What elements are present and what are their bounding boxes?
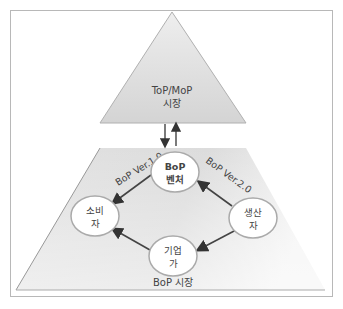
svg-text:기업: 기업 [164, 245, 182, 256]
svg-text:BoP: BoP [165, 161, 186, 172]
bop-market-diagram: ToP/MoP 시장 BoP Ver.1.0 BoP Ver.2.0 BoP 벤… [0, 0, 343, 309]
svg-text:소비: 소비 [86, 205, 104, 216]
node-consumer: 소비 자 [71, 196, 119, 236]
svg-text:자: 자 [91, 218, 100, 229]
top-market-label-1: ToP/MoP [151, 85, 193, 96]
top-market-label-2: 시장 [163, 98, 181, 109]
svg-text:벤처: 벤처 [166, 174, 184, 185]
bop-market-label: BoP 시장 [153, 277, 193, 288]
svg-text:가: 가 [169, 258, 178, 269]
svg-text:생산: 생산 [244, 207, 262, 218]
node-producer: 생산 자 [229, 198, 277, 238]
svg-text:자: 자 [249, 220, 258, 231]
node-entrepreneur: 기업 가 [149, 236, 197, 276]
node-venture: BoP 벤처 [151, 152, 199, 192]
